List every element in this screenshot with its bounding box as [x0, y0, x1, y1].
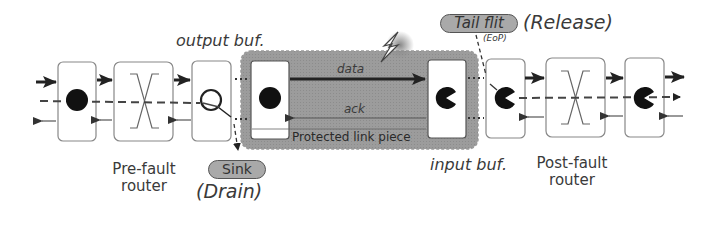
release-label: (Release): [523, 11, 613, 33]
pre-fault-line2: router: [104, 178, 184, 195]
post-fault-line1: Post-fault: [530, 155, 614, 172]
packet-dot: [66, 89, 88, 111]
protected-link-label: Protected link piece: [292, 130, 411, 144]
post-fault-line2: router: [530, 172, 614, 189]
output-buf-label: output buf.: [176, 31, 265, 50]
drain-label: (Drain): [196, 180, 262, 202]
post-fault-router-label: Post-fault router: [530, 155, 614, 189]
data-label: data: [337, 62, 364, 76]
sink-badge: Sink: [208, 160, 266, 179]
tail-flit-badge: Tail flit: [440, 14, 518, 33]
eop-label: (EoP): [483, 33, 507, 43]
packet-dot: [259, 87, 281, 109]
ack-label: ack: [344, 102, 365, 116]
input-buf-label: input buf.: [430, 155, 507, 174]
pre-fault-router-label: Pre-fault router: [104, 161, 184, 195]
pre-fault-line1: Pre-fault: [104, 161, 184, 178]
